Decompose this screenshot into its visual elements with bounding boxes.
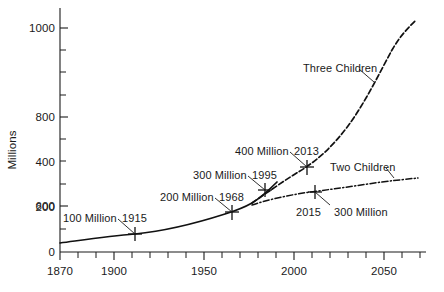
x-tick-label-2050: 2050	[371, 265, 397, 277]
annotation-label-100-million: 100 Million	[63, 212, 117, 224]
x-axis-ticks	[60, 252, 420, 260]
marker-1968	[225, 205, 239, 220]
chart-canvas: 1000 800 600	[0, 0, 444, 292]
x-tick-label-2000: 2000	[281, 265, 307, 277]
annotation-label-400-million: 400 Million	[235, 145, 289, 157]
y-tick-label-1000: 1000	[29, 22, 55, 34]
annotation-label-300-million: 300 Million	[193, 169, 247, 181]
annotation-year-2015: 2015	[296, 206, 321, 218]
annotation-year-1968: 1968	[219, 191, 244, 203]
y-tick-label-0: 0	[49, 246, 56, 258]
x-tick-label-1900: 1900	[101, 265, 127, 277]
y-axis-title: Millions	[6, 130, 18, 169]
curve-label-two-children: Two Children	[330, 161, 395, 173]
curve-label-three-children: Three Children	[303, 62, 377, 74]
x-tick-label-1950: 1950	[191, 265, 217, 277]
annotation-year-1995: 1995	[252, 169, 277, 181]
leader-2015	[315, 192, 330, 205]
y-axis-ticks	[60, 28, 68, 229]
annotation-labels: 100 Million 1915 200 Million 1968 300 Mi…	[63, 62, 395, 224]
y-axis-tick-labels: 1000 800 600	[29, 22, 55, 212]
annotation-year-2013: 2013	[294, 145, 319, 157]
y-tick-label-200: 200	[36, 201, 56, 213]
x-tick-label-1870: 1870	[47, 265, 73, 277]
population-projection-chart: 1000 800 600	[0, 0, 444, 292]
annotation-label-300-million-two-children: 300 Million	[334, 206, 388, 218]
y-tick-label-800: 800	[36, 111, 56, 123]
y-tick-label-400: 400	[36, 156, 56, 168]
annotation-year-1915: 1915	[122, 212, 147, 224]
annotation-label-200-million: 200 Million	[160, 191, 214, 203]
x-axis-tick-labels: 1870 1900 1950 2000 2050	[47, 265, 397, 277]
